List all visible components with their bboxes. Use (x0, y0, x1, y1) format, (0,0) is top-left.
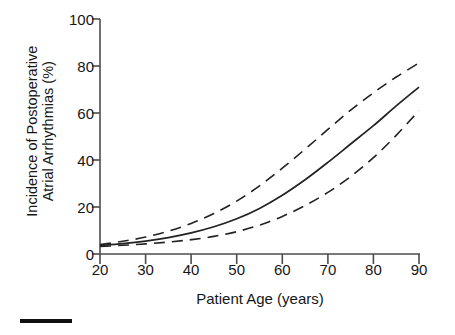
y-tick-label-40: 40 (50, 153, 94, 168)
curve-predicted-incidence (100, 87, 419, 245)
curve-lower-confidence-limit (100, 111, 419, 247)
curve-upper-confidence-limit (100, 63, 419, 245)
x-axis-title: Patient Age (years) (100, 290, 420, 307)
y-axis-tick-labels: 100 80 60 40 20 0 (46, 0, 94, 280)
x-tick-label-40: 40 (171, 262, 211, 277)
x-tick-label-30: 30 (126, 262, 166, 277)
scale-bar (20, 319, 72, 323)
x-axis-tick-labels: 20 30 40 50 60 70 80 90 (0, 262, 455, 286)
x-tick-label-90: 90 (399, 262, 439, 277)
y-axis-title-line1: Incidence of Postoperative (24, 46, 40, 217)
x-tick-label-80: 80 (353, 262, 393, 277)
y-tick-label-100: 100 (50, 12, 94, 27)
y-tick-label-80: 80 (50, 59, 94, 74)
x-tick-label-60: 60 (262, 262, 302, 277)
y-tick-label-0: 0 (50, 247, 94, 262)
chart-figure: Incidence of Postoperative Atrial Arrhyt… (0, 0, 455, 335)
x-tick-label-70: 70 (308, 262, 348, 277)
y-tick-label-20: 20 (50, 200, 94, 215)
x-tick-label-50: 50 (217, 262, 257, 277)
x-tick-label-20: 20 (80, 262, 120, 277)
y-tick-label-60: 60 (50, 106, 94, 121)
